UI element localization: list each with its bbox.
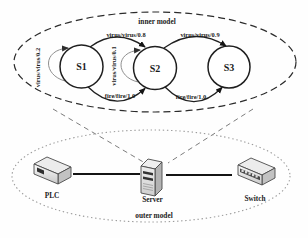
plc-label: PLC (45, 191, 60, 200)
state-s1-label: S1 (76, 61, 87, 72)
transition-s1-s2-virus-label: virus/virus/0.8 (106, 31, 145, 38)
server-label: Server (142, 195, 163, 204)
figure-canvas: S1 S2 S3 virus/virus/0.8 virus/virus/0.9… (0, 0, 308, 238)
projection-line-left (53, 109, 145, 163)
projection-line-right (168, 109, 253, 163)
transition-s2-s3-fire-label: fire/fire/1.0 (176, 93, 206, 100)
plc-icon (34, 157, 71, 184)
transition-s1-s2-virus-arrow (90, 37, 145, 47)
state-s3-label: S3 (224, 62, 235, 73)
self-loop-s2-label: virus/virus/0.1 (110, 46, 117, 85)
state-s2-label: S2 (150, 63, 161, 74)
outer-model-title: outer model (135, 211, 172, 220)
self-loop-s1-label: virus/virus/0.2 (34, 48, 41, 87)
inner-model-title: inner model (138, 17, 175, 26)
switch-icon (238, 158, 275, 185)
transition-s1-s2-fire-label: fire/fire/1.0 (105, 92, 135, 99)
server-icon (141, 159, 162, 196)
state-machine-diagram: S1 S2 S3 virus/virus/0.8 virus/virus/0.9… (0, 0, 308, 238)
transition-s2-s3-virus-label: virus/virus/0.9 (180, 31, 219, 38)
transition-s2-s3-virus-arrow (164, 36, 226, 48)
switch-label: Switch (244, 194, 265, 203)
